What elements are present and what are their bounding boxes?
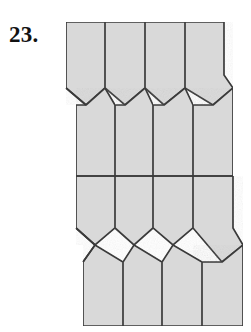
tile-bottom-col-3 — [162, 245, 202, 326]
tile-low-col-2 — [115, 176, 153, 245]
tile-low-col-1 — [76, 176, 115, 245]
tile-bottom-col-1 — [83, 245, 123, 326]
tile-low-col-3 — [153, 176, 193, 245]
tile-top-col-4 — [185, 22, 233, 105]
tile-low-col-4 — [193, 176, 243, 262]
tessellation-figure — [0, 0, 251, 332]
tile-bottom-col-2 — [123, 245, 162, 326]
tile-layer — [66, 22, 243, 326]
figure-root: 23. — [0, 0, 251, 332]
